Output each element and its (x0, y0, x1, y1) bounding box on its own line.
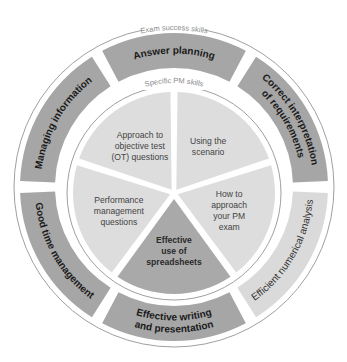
inner-segment-label: Performancemanagementquestions (94, 195, 145, 227)
outer-segment-managing-information: Managing information (20, 57, 110, 185)
inner-segment-label: Using thescenario (190, 136, 227, 157)
outer-segment-correct-interpretation-of-requirements: Correct interpretationof requirements (237, 57, 327, 185)
outer-segment-answer-planning: Answer planning (102, 33, 246, 82)
inner-segment-label: Approach toobjective test(OT) questions (111, 130, 168, 162)
inner-segments: Using thescenarioHow toapproachyour PMex… (73, 92, 275, 294)
outer-ring-line (14, 27, 334, 347)
exam-skills-wheel: Answer planningCorrect interpretationof … (0, 0, 347, 362)
